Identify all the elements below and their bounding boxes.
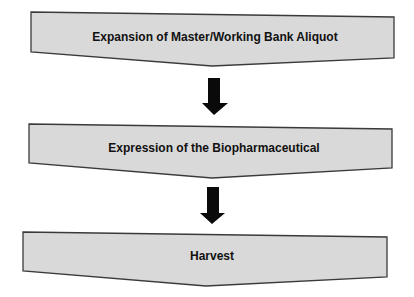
step-label: Expression of the Biopharmaceutical xyxy=(108,141,319,155)
step-harvest: Harvest xyxy=(23,232,387,286)
step-label: Harvest xyxy=(190,249,234,263)
step-expression-of-biopharmaceutical: Expression of the Biopharmaceutical xyxy=(29,124,392,178)
down-arrow-icon xyxy=(200,187,225,224)
step-label: Expansion of Master/Working Bank Aliquot xyxy=(92,30,337,44)
process-flow-diagram: Expansion of Master/Working Bank Aliquot… xyxy=(0,0,414,297)
down-arrow-icon xyxy=(202,78,228,115)
step-expansion-of-bank-aliquot: Expansion of Master/Working Bank Aliquot xyxy=(31,12,394,66)
